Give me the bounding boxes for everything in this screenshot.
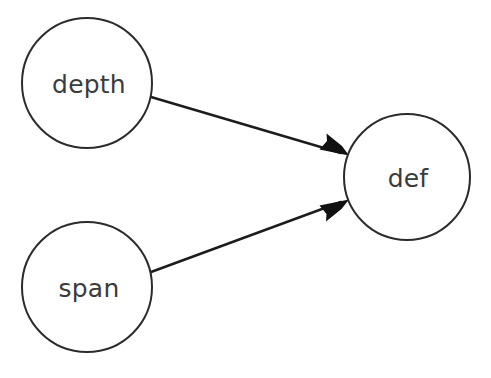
edge-depth-to-def[interactable] [151,97,349,156]
node-def[interactable]: def [344,114,470,240]
arrowhead-icon [320,134,350,156]
edge-line [151,97,341,153]
edge-span-to-def[interactable] [151,200,349,273]
node-depth[interactable]: depth [22,18,152,148]
node-label-def: def [388,164,430,193]
diagram-canvas: depth span def [0,0,491,378]
arrowhead-icon [320,200,350,222]
node-span[interactable]: span [22,222,152,352]
node-label-span: span [59,274,120,303]
graph-svg: depth span def [0,0,491,378]
node-label-depth: depth [52,70,126,99]
edge-line [151,202,341,272]
